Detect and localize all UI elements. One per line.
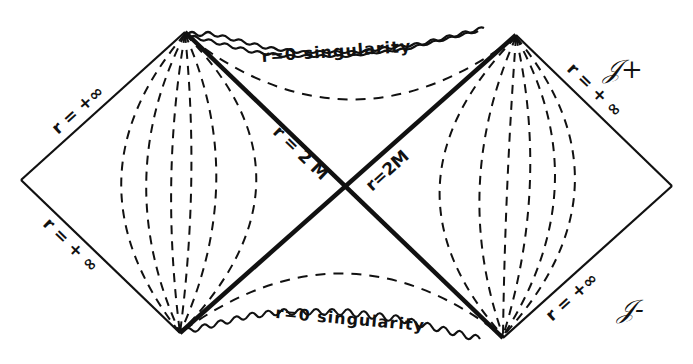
horizon-line-2 <box>180 35 516 333</box>
top-singularity-label: r=0 singularity <box>261 37 412 66</box>
future-null-infinity-label: 𝒥+ <box>601 54 643 84</box>
right-upper-boundary-line <box>516 35 672 186</box>
horizons <box>180 32 516 338</box>
left-upper-boundary-line <box>21 32 185 180</box>
past-null-infinity-label: 𝒥- <box>615 294 644 324</box>
left-lower-infinity-label: r = + ∞ <box>39 213 102 275</box>
bottom-singularity-label: r=0 singularity <box>275 303 426 335</box>
horizon-left-label: r = 2 M <box>269 121 333 183</box>
right-lower-boundary-line <box>503 186 672 338</box>
horizon-right-label: r=2M <box>361 146 413 195</box>
left-lower-boundary-line <box>21 180 180 333</box>
penrose-diagram: r = +∞ r = + ∞ r = + ∞ r = +∞ r = 2 M r=… <box>0 0 693 364</box>
